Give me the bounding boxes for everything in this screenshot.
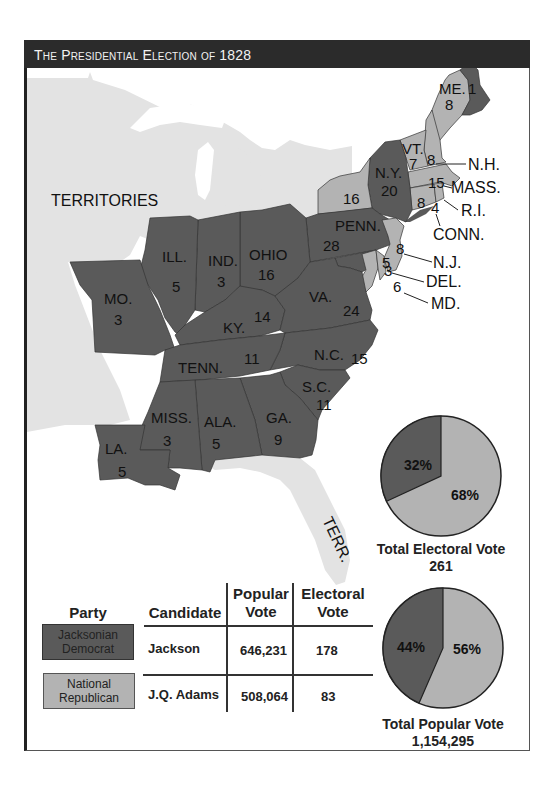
table-divider-2 bbox=[292, 583, 294, 712]
popular-vote-total: 1,154,295 bbox=[353, 733, 533, 750]
label-rhode-island: R.I. bbox=[461, 202, 486, 219]
label-tennessee: TENN. bbox=[178, 359, 223, 376]
votes-rhode-island: 4 bbox=[431, 199, 439, 216]
popular-jackson-pct: 44% bbox=[397, 639, 426, 655]
votes-connecticut: 8 bbox=[417, 194, 425, 211]
votes-maryland-jackson: 5 bbox=[382, 254, 390, 271]
votes-illinois: 5 bbox=[172, 278, 180, 295]
electoral-adams-pct: 68% bbox=[451, 487, 480, 503]
votes-georgia: 9 bbox=[274, 431, 282, 448]
popular-vote-pie: 44% 56% bbox=[381, 586, 505, 710]
label-georgia: GA. bbox=[266, 409, 292, 426]
header-popular-vote: Popular Vote bbox=[228, 585, 294, 621]
votes-vermont: 7 bbox=[409, 155, 417, 172]
label-north-carolina: N.C. bbox=[314, 346, 344, 363]
party-name-line2: Republican bbox=[44, 691, 134, 705]
label-pennsylvania: PENN. bbox=[335, 217, 381, 234]
label-illinois: ILL. bbox=[162, 248, 187, 265]
header-party: Party bbox=[42, 604, 134, 622]
electoral-vote-title: Total Electoral Vote 261 bbox=[351, 541, 531, 575]
popular-adams-pct: 56% bbox=[453, 641, 482, 657]
votes-maine-adams: 8 bbox=[445, 96, 453, 113]
votes-indiana: 3 bbox=[217, 273, 225, 290]
votes-tennessee: 11 bbox=[244, 350, 260, 367]
header-electoral-vote-line1: Electoral bbox=[294, 585, 372, 603]
party-name-line2: Democrat bbox=[43, 642, 133, 656]
label-ohio: OHIO bbox=[249, 246, 287, 263]
label-louisiana: LA. bbox=[105, 440, 128, 457]
votes-kentucky: 14 bbox=[254, 308, 271, 325]
popular-vote-title-text: Total Popular Vote bbox=[353, 716, 533, 733]
header-electoral-vote: Electoral Vote bbox=[294, 585, 372, 621]
label-indiana: IND. bbox=[208, 252, 238, 269]
candidate-jackson: Jackson bbox=[148, 641, 200, 656]
label-massachusetts: MASS. bbox=[451, 179, 501, 196]
popular-vote-jackson: 646,231 bbox=[240, 643, 287, 658]
votes-south-carolina: 11 bbox=[316, 396, 332, 413]
votes-alabama: 5 bbox=[212, 435, 220, 452]
electoral-vote-total: 261 bbox=[351, 558, 531, 575]
votes-maine-jackson: 1 bbox=[468, 80, 476, 97]
label-new-hampshire: N.H. bbox=[468, 156, 500, 173]
label-new-jersey: N.J. bbox=[433, 254, 461, 271]
votes-massachusetts: 15 bbox=[428, 174, 445, 191]
label-maryland: MD. bbox=[431, 295, 460, 312]
label-new-york: N.Y. bbox=[375, 164, 402, 181]
electoral-vote-jackson: 178 bbox=[316, 643, 338, 658]
table-header-rule bbox=[144, 625, 373, 627]
votes-mississippi: 3 bbox=[163, 432, 171, 449]
header-popular-vote-line2: Vote bbox=[228, 603, 294, 621]
label-maine: ME. bbox=[439, 80, 466, 97]
votes-missouri: 3 bbox=[114, 311, 122, 328]
votes-north-carolina: 15 bbox=[351, 350, 368, 367]
votes-maryland-adams: 6 bbox=[393, 278, 401, 295]
party-name-line1: Jacksonian bbox=[43, 628, 133, 642]
table-row-rule bbox=[143, 674, 373, 676]
electoral-vote-adams: 83 bbox=[321, 689, 335, 704]
label-south-carolina: S.C. bbox=[302, 378, 331, 395]
votes-new-york-jackson: 20 bbox=[381, 182, 398, 199]
header-candidate: Candidate bbox=[145, 604, 225, 622]
territories-label: TERRITORIES bbox=[51, 192, 158, 209]
table-divider-1 bbox=[226, 583, 228, 712]
electoral-jackson-pct: 32% bbox=[404, 457, 433, 473]
votes-pennsylvania: 28 bbox=[323, 237, 340, 254]
party-name-line1: National bbox=[44, 677, 134, 691]
party-swatch-jacksonian-democrat: Jacksonian Democrat bbox=[42, 624, 134, 660]
label-virginia: VA. bbox=[309, 288, 332, 305]
label-delaware: DEL. bbox=[426, 273, 462, 290]
popular-vote-adams: 508,064 bbox=[241, 689, 288, 704]
votes-new-york-adams: 16 bbox=[343, 190, 360, 207]
label-connecticut: CONN. bbox=[433, 226, 485, 243]
label-missouri: MO. bbox=[104, 290, 132, 307]
votes-new-hampshire: 8 bbox=[427, 151, 435, 168]
electoral-vote-title-text: Total Electoral Vote bbox=[351, 541, 531, 558]
votes-virginia: 24 bbox=[343, 302, 360, 319]
popular-vote-title: Total Popular Vote 1,154,295 bbox=[353, 716, 533, 750]
map-title: The Presidential Election of 1828 bbox=[24, 40, 530, 68]
party-swatch-national-republican: National Republican bbox=[43, 673, 135, 709]
label-kentucky: KY. bbox=[223, 319, 245, 336]
votes-louisiana: 5 bbox=[118, 463, 126, 480]
candidate-adams: J.Q. Adams bbox=[148, 687, 219, 702]
votes-ohio: 16 bbox=[258, 266, 275, 283]
electoral-vote-pie: 32% 68% bbox=[379, 414, 503, 538]
label-mississippi: MISS. bbox=[151, 409, 192, 426]
header-popular-vote-line1: Popular bbox=[228, 585, 294, 603]
label-alabama: ALA. bbox=[204, 413, 237, 430]
votes-new-jersey: 8 bbox=[396, 240, 404, 257]
header-electoral-vote-line2: Vote bbox=[294, 603, 372, 621]
